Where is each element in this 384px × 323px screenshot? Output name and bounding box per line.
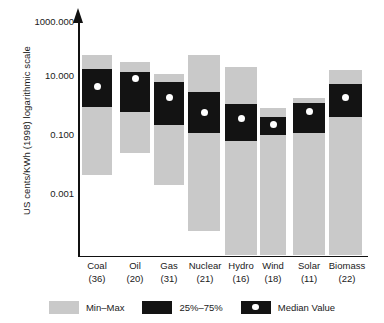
category-count: (36) <box>82 273 112 286</box>
legend-label: 25%–75% <box>179 302 222 313</box>
x-tick-label-wind: Wind(18) <box>256 260 290 285</box>
bar-hydro <box>225 0 257 256</box>
legend-label: Median Value <box>278 302 335 313</box>
legend-swatch-gray <box>49 301 79 314</box>
min-max-range <box>225 67 257 255</box>
legend-swatch-black <box>142 301 172 314</box>
x-tick-label-biomass: Biomass(22) <box>325 260 369 285</box>
x-tick-label-coal: Coal(36) <box>82 260 112 285</box>
bar-oil <box>120 0 150 256</box>
median-marker <box>166 94 173 101</box>
min-max-range <box>188 55 220 231</box>
median-dot-icon <box>252 304 259 311</box>
chart-root: US cents/KWh (1998) logarithmic scale 10… <box>0 0 384 323</box>
median-marker <box>94 83 101 90</box>
bar-wind <box>260 0 286 256</box>
category-name: Coal <box>87 260 107 271</box>
category-count: (18) <box>256 273 290 286</box>
legend-label: Min–Max <box>86 302 125 313</box>
interquartile-box <box>154 82 184 125</box>
median-marker <box>132 75 139 82</box>
interquartile-box <box>329 84 362 117</box>
category-count: (16) <box>221 273 261 286</box>
median-marker <box>342 94 349 101</box>
y-tick-label: 10.000 <box>2 70 74 81</box>
median-marker <box>201 109 208 116</box>
y-tick-label: 0.001 <box>2 188 74 199</box>
category-count: (11) <box>290 273 328 286</box>
chart-legend: Min–Max25%–75%Median Value <box>0 296 384 318</box>
category-name: Wind <box>262 260 284 271</box>
x-tick-label-oil: Oil(20) <box>120 260 150 285</box>
legend-swatch-black-dot <box>241 301 271 314</box>
legend-item-1: Min–Max <box>49 301 125 314</box>
y-axis-tick-labels: 1000.00010.0000.1000.001 <box>0 0 74 260</box>
category-name: Hydro <box>228 260 253 271</box>
median-marker <box>238 115 245 122</box>
x-axis-tick-labels: Coal(36)Oil(20)Gas(31)Nuclear(21)Hydro(1… <box>78 258 374 292</box>
legend-item-2: 25%–75% <box>142 301 222 314</box>
bar-biomass <box>329 0 362 256</box>
bar-nuclear <box>188 0 220 256</box>
x-tick-label-solar: Solar(11) <box>290 260 328 285</box>
bar-coal <box>82 0 112 256</box>
y-tick-label: 0.100 <box>2 129 74 140</box>
category-count: (20) <box>120 273 150 286</box>
category-name: Gas <box>160 260 177 271</box>
interquartile-box <box>225 104 257 141</box>
median-marker <box>270 121 277 128</box>
x-tick-label-hydro: Hydro(16) <box>221 260 261 285</box>
category-name: Oil <box>129 260 141 271</box>
category-name: Biomass <box>329 260 365 271</box>
category-count: (21) <box>184 273 226 286</box>
category-count: (31) <box>154 273 184 286</box>
x-tick-label-gas: Gas(31) <box>154 260 184 285</box>
bar-gas <box>154 0 184 256</box>
plot-area <box>78 0 374 256</box>
legend-item-3: Median Value <box>241 301 335 314</box>
y-tick-label: 1000.000 <box>2 16 74 27</box>
bar-solar <box>293 0 325 256</box>
category-name: Nuclear <box>189 260 222 271</box>
category-name: Solar <box>298 260 320 271</box>
median-marker <box>306 108 313 115</box>
x-tick-label-nuclear: Nuclear(21) <box>184 260 226 285</box>
category-count: (22) <box>325 273 369 286</box>
